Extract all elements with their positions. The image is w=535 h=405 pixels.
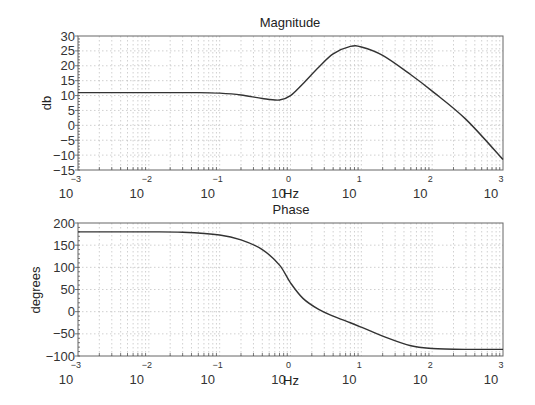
magnitude-x-tick-exponent: −2 (142, 174, 152, 184)
magnitude-x-tick-exponent: 3 (498, 174, 503, 184)
magnitude-curve (78, 46, 503, 160)
magnitude-y-tick-label: −5 (60, 133, 75, 148)
phase-plot: Phase 200150100500−50−10010−310−210−1100… (28, 202, 504, 388)
phase-x-tick-base: 10 (59, 372, 73, 387)
magnitude-xlabel: Hz (283, 186, 299, 201)
magnitude-x-tick-base: 10 (342, 186, 356, 201)
phase-x-tick-exponent: 3 (498, 360, 503, 370)
magnitude-x-tick-base: 10 (413, 186, 427, 201)
phase-y-tick-label: 0 (68, 304, 75, 319)
phase-x-tick-base: 10 (413, 372, 427, 387)
phase-x-tick-exponent: 0 (286, 360, 291, 370)
phase-x-tick-exponent: 2 (428, 360, 433, 370)
magnitude-x-tick-base: 10 (200, 186, 214, 201)
magnitude-y-tick-label: 30 (61, 29, 75, 44)
magnitude-y-tick-label: −10 (53, 148, 75, 163)
magnitude-x-tick-exponent: −1 (213, 174, 223, 184)
magnitude-plot: Magnitude 302520151050−5−10−1510−310−210… (39, 15, 504, 201)
magnitude-ylabel: db (39, 96, 54, 110)
phase-x-tick-base: 10 (200, 372, 214, 387)
phase-y-tick-label: 200 (53, 216, 75, 231)
magnitude-x-tick-base: 10 (484, 186, 498, 201)
phase-x-tick-exponent: −2 (142, 360, 152, 370)
phase-x-tick-base: 10 (484, 372, 498, 387)
phase-y-tick-label: −50 (53, 326, 75, 341)
magnitude-x-tick-exponent: 0 (286, 174, 291, 184)
magnitude-x-tick-exponent: −3 (71, 174, 81, 184)
magnitude-y-tick-label: 0 (68, 118, 75, 133)
magnitude-y-tick-label: 20 (61, 58, 75, 73)
phase-y-tick-label: 100 (53, 260, 75, 275)
phase-ylabel: degrees (28, 266, 43, 313)
phase-x-tick-base: 10 (342, 372, 356, 387)
magnitude-x-tick-base: 10 (59, 186, 73, 201)
phase-x-tick-exponent: −1 (213, 360, 223, 370)
magnitude-title: Magnitude (260, 15, 321, 30)
magnitude-y-tick-label: 25 (61, 43, 75, 58)
magnitude-y-tick-label: 10 (61, 88, 75, 103)
magnitude-y-tick-label: 5 (68, 103, 75, 118)
bode-figure: Magnitude 302520151050−5−10−1510−310−210… (0, 0, 535, 405)
phase-y-tick-label: 50 (61, 282, 75, 297)
phase-y-tick-label: 150 (53, 238, 75, 253)
magnitude-x-tick-base: 10 (130, 186, 144, 201)
phase-x-tick-exponent: −3 (71, 360, 81, 370)
magnitude-x-tick-exponent: 1 (357, 174, 362, 184)
phase-x-tick-exponent: 1 (357, 360, 362, 370)
phase-x-tick-base: 10 (130, 372, 144, 387)
magnitude-y-tick-label: 15 (61, 73, 75, 88)
magnitude-x-tick-exponent: 2 (428, 174, 433, 184)
phase-xlabel: Hz (283, 373, 299, 388)
phase-title: Phase (273, 202, 310, 217)
